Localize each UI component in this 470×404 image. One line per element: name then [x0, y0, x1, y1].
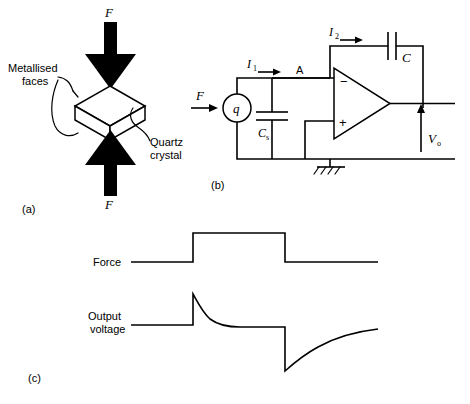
- current-i2-arrow-icon: [340, 37, 363, 44]
- panel-a-group: Metallised faces Quartz crystal F F (a): [8, 5, 183, 215]
- force-label-bottom: F: [104, 197, 114, 212]
- figure-root: Metallised faces Quartz crystal F F (a) …: [0, 0, 470, 404]
- metallised-leader-lower: [52, 80, 78, 136]
- current-i1-label: I: [246, 57, 252, 71]
- feedback-capacitor-label: C: [402, 50, 411, 65]
- force-input-arrow-icon: [191, 104, 218, 112]
- force-label-top: F: [104, 5, 114, 20]
- panel-b-caption: (b): [211, 179, 224, 191]
- opamp-noninverting-input-label: +: [339, 115, 347, 130]
- figure-canvas: Metallised faces Quartz crystal F F (a) …: [0, 0, 470, 404]
- feedback-capacitor-c: [388, 32, 396, 60]
- panel-c-caption: (c): [28, 372, 41, 384]
- panel-c-group: Force Output voltage (c): [28, 233, 378, 384]
- force-waveform-trace: [131, 233, 378, 262]
- current-i2-label: I: [328, 25, 334, 39]
- force-input-label: F: [195, 88, 205, 103]
- charge-source-label: q: [233, 101, 240, 116]
- wire-noninverting-to-ground: [305, 121, 334, 159]
- current-i1-sub: 1: [253, 64, 257, 73]
- wire-source-to-top-rail: [237, 78, 330, 94]
- output-voltage-waveform-label-line2: voltage: [90, 323, 125, 335]
- ground-symbol-icon: [314, 159, 345, 174]
- output-voltage-sub: o: [437, 139, 441, 148]
- metallised-faces-label-line1: Metallised: [8, 62, 58, 74]
- output-voltage-arrow-icon: [417, 104, 425, 152]
- panel-b-group: F q I 1 C s A: [191, 25, 455, 191]
- metallised-faces-label-line2: faces: [22, 75, 49, 87]
- shunt-capacitor-cs: [256, 78, 288, 159]
- force-waveform-label: Force: [93, 256, 121, 268]
- opamp-inverting-input-label: −: [340, 74, 348, 89]
- metallised-leader-top-tick: [73, 91, 78, 97]
- quartz-crystal-label-l1: Quartz: [150, 136, 183, 148]
- force-arrow-bottom-icon: [85, 130, 136, 196]
- node-a-label: A: [296, 64, 304, 76]
- quartz-crystal-label-l2: crystal: [150, 149, 182, 161]
- output-voltage-waveform-label-line1: Output: [88, 310, 121, 322]
- output-voltage-waveform-trace: [131, 294, 378, 371]
- current-i2-sub: 2: [335, 32, 339, 41]
- shunt-capacitor-sub: s: [266, 133, 269, 142]
- panel-a-caption: (a): [22, 203, 35, 215]
- force-arrow-top-icon: [85, 22, 136, 89]
- current-i1-arrow-icon: [258, 69, 281, 76]
- metallised-leader-upper: [58, 77, 73, 91]
